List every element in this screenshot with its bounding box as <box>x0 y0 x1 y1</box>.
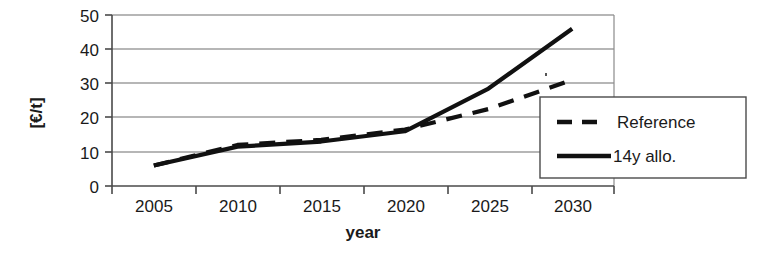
chart-figure: 50 40 30 20 10 0 [€/t] 2005 2010 2015 20… <box>0 0 772 259</box>
line-chart: 50 40 30 20 10 0 [€/t] 2005 2010 2015 20… <box>0 0 772 259</box>
y-axis-title: [€/t] <box>27 97 46 128</box>
y-tick-label: 50 <box>80 7 99 26</box>
x-tick-label: 2010 <box>219 197 257 216</box>
y-tick-label: 40 <box>80 41 99 60</box>
y-tick-label: 30 <box>80 75 99 94</box>
y-tick-label: 10 <box>80 144 99 163</box>
x-axis-title: year <box>346 223 381 242</box>
x-tick-labels: 2005 2010 2015 2020 2025 2030 <box>135 197 592 216</box>
x-tick-label: 2025 <box>471 197 509 216</box>
x-axis-ticks <box>112 186 614 194</box>
y-tick-labels: 50 40 30 20 10 0 <box>80 7 99 197</box>
y-tick-label: 20 <box>80 109 99 128</box>
x-tick-label: 2005 <box>135 197 173 216</box>
legend-label-reference: Reference <box>617 113 695 132</box>
x-tick-label: 2015 <box>303 197 341 216</box>
chart-legend[interactable]: Reference 14y allo. <box>540 97 746 178</box>
y-tick-label: 0 <box>90 178 99 197</box>
plot-area-background <box>112 15 614 186</box>
scan-artifact-dot <box>545 73 547 76</box>
y-axis-ticks <box>105 15 112 186</box>
x-tick-label: 2020 <box>387 197 425 216</box>
legend-label-14y-allo: 14y allo. <box>613 147 676 166</box>
x-tick-label: 2030 <box>554 197 592 216</box>
